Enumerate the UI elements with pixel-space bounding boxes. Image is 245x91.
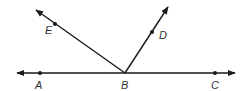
label-d: D: [159, 29, 167, 41]
label-e: E: [45, 24, 53, 36]
geometry-diagram: A B C D E: [0, 0, 245, 91]
point-c: [213, 71, 217, 75]
point-d: [150, 30, 154, 34]
point-a: [38, 71, 42, 75]
label-c: C: [211, 79, 219, 91]
point-e: [53, 22, 57, 26]
ray-be: [36, 10, 125, 73]
label-a: A: [34, 79, 42, 91]
label-b: B: [121, 79, 128, 91]
